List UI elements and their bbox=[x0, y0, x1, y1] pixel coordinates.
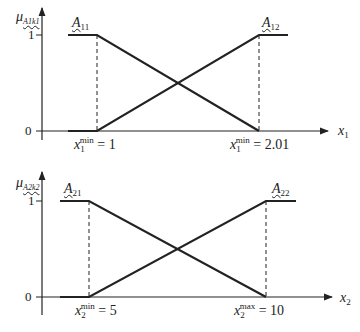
bottom-y-axis-label: μA2k2 bbox=[16, 176, 39, 192]
bottom-tick-one-label: 1 bbox=[28, 194, 35, 207]
top-mark-left-label: x1min = 1 bbox=[74, 136, 116, 154]
top-x-axis-label: x1 bbox=[338, 124, 349, 140]
bottom-curve-a21 bbox=[60, 201, 266, 297]
top-tick-one-label: 1 bbox=[28, 28, 35, 41]
top-curve-a12 bbox=[68, 35, 288, 131]
bottom-mark-right-label: x2max = 10 bbox=[234, 302, 284, 320]
top-mark-right-label: x1min = 2.01 bbox=[230, 136, 289, 154]
top-set-a12-label: A12 bbox=[262, 16, 280, 32]
top-set-a11-label: A11 bbox=[72, 16, 89, 32]
bottom-set-a21-label: A21 bbox=[64, 182, 82, 198]
bottom-curve-a22 bbox=[60, 201, 296, 297]
top-tick-zero-label: 0 bbox=[25, 124, 32, 137]
bottom-mark-left-label: x2min = 5 bbox=[75, 302, 117, 320]
bottom-tick-zero-label: 0 bbox=[25, 290, 32, 303]
top-y-axis-label: μA1k1 bbox=[16, 10, 39, 26]
bottom-x-axis-label: x2 bbox=[340, 291, 351, 307]
bottom-set-a22-label: A22 bbox=[272, 182, 290, 198]
membership-diagrams bbox=[0, 0, 360, 332]
